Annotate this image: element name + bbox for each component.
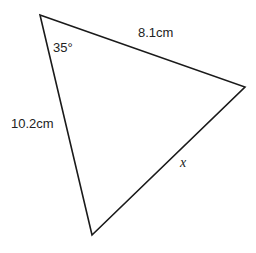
angle-top-label: 35°: [53, 40, 73, 55]
side-top-label: 8.1cm: [138, 25, 173, 40]
side-right-label: x: [179, 155, 187, 170]
side-left-label: 10.2cm: [11, 116, 54, 131]
triangle-diagram: 8.1cm 10.2cm x 35°: [0, 0, 256, 253]
